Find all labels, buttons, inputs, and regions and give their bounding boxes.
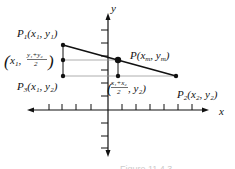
label-midpoint: P(xm, ym) xyxy=(129,49,170,63)
fraction-denominator: 2 xyxy=(117,88,121,96)
vertical-guides xyxy=(63,45,118,76)
y-axis-arrow-up-icon xyxy=(106,13,111,20)
y-axis-label: y xyxy=(110,2,116,14)
svg-text:, y₂): , y₂) xyxy=(128,82,146,95)
label-bottom-midpoint: ( x₁+x₂ 2 , y₂) xyxy=(107,79,146,97)
point-p1 xyxy=(61,43,65,47)
y-axis-arrow-down-icon xyxy=(106,150,111,157)
label-p2: P2(x₂, y₂) xyxy=(176,88,218,102)
point-left-mid xyxy=(61,58,65,62)
fraction-numerator: y₁+y₂ xyxy=(26,51,43,59)
svg-text:x1,: x1, xyxy=(9,54,21,68)
figure-caption: Figure 11.4.3 xyxy=(120,164,172,169)
point-p3 xyxy=(61,74,65,78)
fraction-numerator: x₁+x₂ xyxy=(110,79,127,87)
label-p3: P3(x₁, y₂) xyxy=(16,80,58,94)
svg-text:): ) xyxy=(47,52,54,71)
point-bottom-mid xyxy=(116,74,120,78)
midpoint-diagram: y x P1(x₁, y₁) P(xm, ym) P2(x₂, y₂) P3(x… xyxy=(0,0,235,169)
point-midpoint xyxy=(115,57,121,63)
point-p2 xyxy=(174,74,178,78)
fraction-denominator: 2 xyxy=(34,60,38,68)
x-axis-label: x xyxy=(218,105,224,117)
x-axis-arrow-left-icon xyxy=(27,108,34,113)
label-p1: P1(x₁, y₁) xyxy=(16,27,58,41)
label-left-midpoint: ( x1, y₁+y₂ 2 ) xyxy=(4,51,54,71)
x-axis-arrow-right-icon xyxy=(202,108,209,113)
